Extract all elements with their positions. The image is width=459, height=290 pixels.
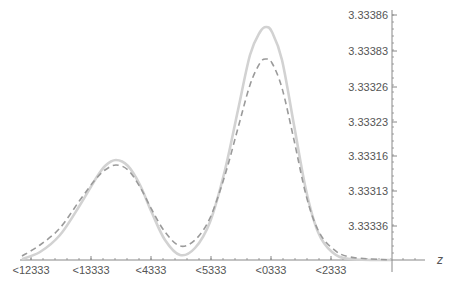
- series-group: [22, 27, 392, 260]
- x-axis-title: z: [436, 253, 443, 267]
- x-tick-label: <5333: [196, 264, 227, 276]
- x-tick-label: <13333: [72, 264, 109, 276]
- x-tick-label: <2333: [316, 264, 347, 276]
- x-tick-label: <12333: [12, 264, 49, 276]
- y-tick-label: 3.33326: [348, 81, 388, 93]
- y-axis: 3.333863.333833.333263.333233.333163.333…: [348, 9, 397, 272]
- y-tick-label: 3.33323: [348, 116, 388, 128]
- x-tick-label: <4333: [136, 264, 167, 276]
- x-tick-label: <0333: [256, 264, 287, 276]
- y-tick-label: 3.33336: [348, 220, 388, 232]
- y-tick-label: 3.33313: [348, 185, 388, 197]
- y-tick-label: 3.33383: [348, 45, 388, 57]
- y-tick-label: 3.33316: [348, 150, 388, 162]
- y-tick-label: 3.33386: [348, 9, 388, 21]
- chart: <12333<13333<4333<5333<0333<2333 3.33386…: [0, 0, 459, 290]
